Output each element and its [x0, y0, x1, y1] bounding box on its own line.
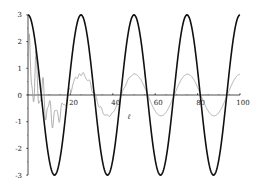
y-tick-label: 0	[18, 92, 22, 100]
annotation-label: ℓ	[127, 113, 131, 121]
series-response	[28, 34, 240, 128]
annotation: ℓ	[127, 113, 131, 121]
y-tick-label: -1	[15, 118, 22, 126]
x-tick-label: 60	[154, 99, 163, 107]
y-tick-label: -2	[15, 145, 22, 153]
x-tick-label: 20	[69, 99, 78, 107]
x-tick-label: 100	[236, 99, 249, 107]
y-tick-label: 3	[18, 11, 22, 19]
line-chart: 3210-1-2-320406080100 ℓ	[0, 0, 260, 190]
tick-labels: 3210-1-2-320406080100	[15, 11, 250, 179]
y-tick-label: 2	[18, 38, 22, 46]
axes	[26, 15, 240, 175]
y-tick-label: -3	[15, 172, 22, 180]
y-tick-label: 1	[18, 65, 22, 73]
